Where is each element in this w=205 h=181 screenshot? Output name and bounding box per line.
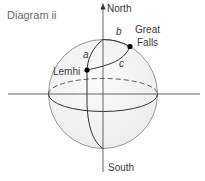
arc-c-label: c <box>119 58 124 69</box>
great-falls-label-line2: Falls <box>137 37 158 48</box>
lemhi-point <box>84 67 89 72</box>
arc-a-label: a <box>83 49 89 60</box>
north-arrow-icon <box>101 3 106 10</box>
south-label: South <box>108 162 134 173</box>
sphere-diagram: Diagram ii North South Lemhi Great Falls… <box>0 0 205 181</box>
great-falls-point <box>127 44 132 49</box>
arc-b-label: b <box>116 26 122 37</box>
north-label: North <box>107 3 131 14</box>
great-falls-label-line1: Great <box>135 24 160 35</box>
diagram-title: Diagram ii <box>7 9 57 21</box>
lemhi-label: Lemhi <box>53 66 80 77</box>
